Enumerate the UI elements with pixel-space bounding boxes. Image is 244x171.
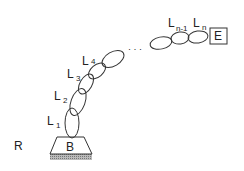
svg-text:1: 1 (56, 121, 61, 130)
svg-text:L: L (82, 54, 89, 68)
svg-text:n: n (202, 23, 206, 32)
svg-text:L: L (193, 16, 200, 30)
link-1-ellipse (65, 108, 79, 138)
svg-text:L: L (67, 67, 74, 81)
svg-text:4: 4 (91, 57, 96, 66)
link-2-ellipse (67, 86, 90, 117)
svg-text:L: L (47, 114, 54, 128)
robot-arm-diagram: R B · · · E L 1 L 2 L 3 L 4 L n-1 L n (0, 0, 244, 171)
svg-text:2: 2 (63, 96, 68, 105)
link-label-1: L 1 (47, 114, 61, 130)
link-label-4: L 4 (82, 54, 96, 68)
ellipsis-dots: · · · (128, 44, 142, 54)
link-label-n-1: L n-1 (168, 16, 188, 33)
svg-text:L: L (168, 16, 175, 30)
svg-text:L: L (54, 89, 61, 103)
svg-text:n-1: n-1 (176, 24, 188, 33)
end-effector-label: E (214, 29, 222, 43)
link-label-2: L 2 (54, 89, 68, 105)
base-label: B (66, 140, 74, 154)
link-4-ellipse (85, 60, 108, 82)
link-5-ellipse (99, 47, 127, 71)
ground-hatching (50, 154, 92, 160)
link-label-3: L 3 (67, 67, 81, 83)
link-n2-ellipse (149, 35, 173, 51)
reference-frame-label: R (14, 139, 23, 153)
svg-text:3: 3 (76, 74, 81, 83)
link-label-n: L n (193, 16, 206, 32)
